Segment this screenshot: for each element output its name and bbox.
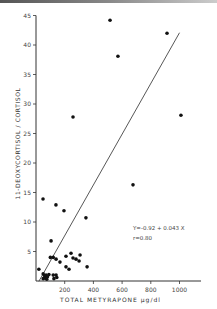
regression-equation: Y=-0.92 + 0.043 X	[133, 225, 185, 231]
y-tick-label: 35	[23, 71, 31, 78]
data-point	[77, 259, 81, 263]
data-point	[64, 254, 68, 258]
y-tick-label: 30	[23, 100, 31, 107]
data-point	[78, 253, 82, 257]
data-point	[64, 265, 68, 269]
data-point	[71, 115, 75, 119]
data-point	[49, 239, 53, 243]
data-point	[45, 277, 49, 281]
data-point	[58, 260, 62, 264]
data-point	[84, 216, 88, 220]
y-tick-label: 15	[23, 189, 31, 196]
data-point	[69, 251, 73, 255]
y-tick-label: 5	[27, 248, 31, 255]
data-point	[74, 257, 78, 261]
y-tick-label: 45	[23, 12, 31, 19]
x-tick-label: 200	[59, 286, 71, 293]
data-point	[67, 267, 71, 271]
y-tick-label: 20	[23, 159, 31, 166]
x-tick-label: 600	[116, 286, 128, 293]
data-point	[54, 203, 58, 207]
y-tick-label: 10	[23, 218, 31, 225]
data-point	[116, 54, 120, 58]
regression-line	[39, 33, 180, 282]
data-point	[108, 18, 112, 22]
data-point	[179, 113, 183, 117]
data-point	[55, 276, 59, 280]
y-axis-label: 11-DEOXYCORTISOL / CORTISOL	[14, 69, 21, 219]
x-tick-label: 800	[145, 286, 157, 293]
data-point	[37, 267, 41, 271]
data-point	[41, 197, 45, 201]
data-point	[131, 183, 135, 187]
data-point	[165, 31, 169, 35]
x-tick-label: 1000	[172, 286, 187, 293]
y-tick-label: 40	[23, 41, 31, 48]
x-tick-label: 400	[88, 286, 100, 293]
data-point	[47, 273, 51, 277]
x-axis-label: TOTAL METYRAPONE µg/dl	[60, 296, 161, 303]
y-tick-label: 25	[23, 130, 31, 137]
correlation-coefficient: r=0.80	[133, 235, 152, 241]
scatter-plot: 510152025303540452004006008001000	[0, 0, 217, 309]
data-point	[41, 277, 45, 281]
data-point	[85, 265, 89, 269]
data-point	[54, 257, 58, 261]
data-point	[62, 209, 66, 213]
